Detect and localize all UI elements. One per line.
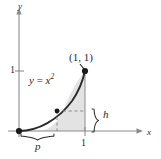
y-axis-label: y <box>18 2 22 11</box>
point-on-curve-dot <box>55 109 60 114</box>
curve-equation-label: y = x2 <box>29 73 54 86</box>
point-label-leader-line <box>80 64 84 69</box>
point-coordinate-label: (1, 1) <box>69 52 93 63</box>
x-axis-tick-label-1: 1 <box>81 138 86 148</box>
point-origin-dot <box>16 128 22 134</box>
brace-h <box>92 109 99 132</box>
curve-equation-exponent: 2 <box>51 72 55 81</box>
figure-container: y x 1 1 (1, 1) y = x2 h p <box>0 0 161 159</box>
y-axis-tick-label-1: 1 <box>10 65 15 75</box>
x-axis-label: x <box>147 128 151 137</box>
x-axis-arrow-icon <box>137 128 144 133</box>
height-brace-label: h <box>103 109 109 120</box>
width-brace-label: p <box>35 141 41 152</box>
figure-canvas <box>0 0 161 159</box>
curve-equation-equals: = <box>34 74 46 86</box>
point-one-one-dot <box>82 68 88 74</box>
